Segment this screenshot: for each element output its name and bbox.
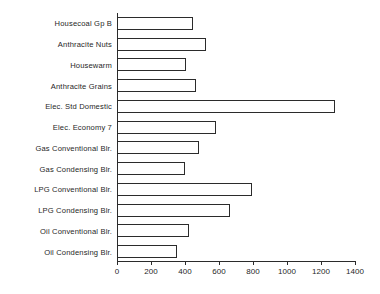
tick-label: 400: [178, 267, 191, 276]
bar-chart: Housecoal Gp BAnthracite NutsHousewarmAn…: [0, 0, 380, 294]
tick-mark: [287, 261, 288, 265]
tick-label: 1000: [278, 267, 296, 276]
tick-label: 0: [115, 267, 119, 276]
tick-mark: [185, 261, 186, 265]
tick-mark: [355, 261, 356, 265]
x-axis-ticks: 0200400600800100012001400: [0, 0, 380, 294]
tick-mark: [117, 261, 118, 265]
tick-label: 200: [144, 267, 157, 276]
tick-mark: [151, 261, 152, 265]
tick-label: 600: [212, 267, 225, 276]
tick-mark: [253, 261, 254, 265]
tick-mark: [219, 261, 220, 265]
tick-label: 1400: [346, 267, 364, 276]
tick-mark: [321, 261, 322, 265]
tick-label: 1200: [312, 267, 330, 276]
tick-label: 800: [246, 267, 259, 276]
